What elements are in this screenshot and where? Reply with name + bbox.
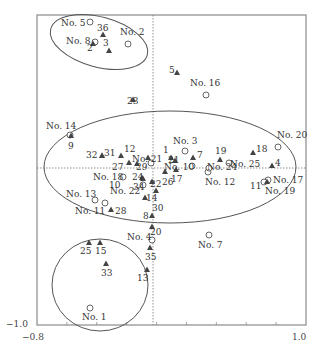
point-label: 30 [152, 203, 164, 213]
point-label: 13 [137, 273, 149, 283]
point-label: 5 [169, 65, 175, 75]
point-label: 24 [132, 172, 144, 182]
species-marker-triangle-icon [106, 48, 112, 54]
species-marker-triangle-icon [174, 70, 180, 76]
point-label: No. 17 [273, 175, 304, 185]
point-label: 31 [104, 148, 115, 158]
species-marker-triangle-icon [103, 261, 109, 267]
point-label: 10 [109, 180, 121, 190]
point-label: 20 [150, 227, 162, 237]
point-label: 36 [97, 23, 109, 33]
point-label: 25 [80, 246, 92, 256]
site-marker-circle-icon [87, 19, 93, 25]
point-label: No. 16 [190, 78, 221, 88]
point-label: 3 [103, 38, 109, 48]
species-marker-triangle-icon [108, 207, 114, 213]
point-label: No. 19 [265, 186, 296, 196]
point-label: 15 [95, 246, 107, 256]
species-marker-triangle-icon [147, 245, 153, 251]
point-label: No. 12 [205, 177, 235, 187]
point-label: 8 [143, 211, 149, 221]
point-label: 21 [168, 155, 179, 165]
point-label: 14 [146, 193, 158, 203]
point-label: No. 25 [230, 159, 261, 169]
x-max-tick-label: 1.0 [292, 332, 307, 342]
point-label: 29 [136, 162, 148, 172]
site-marker-circle-icon [203, 92, 209, 98]
point-label: 35 [145, 252, 157, 262]
x-min-tick-label: −0.8 [22, 332, 44, 342]
point-label: 19 [215, 146, 227, 156]
group-top-left-ellipse [44, 5, 154, 79]
point-label: No. 1 [82, 312, 107, 322]
point-label: No. 5 [61, 18, 86, 28]
point-label: 18 [256, 144, 268, 154]
point-label: 23 [127, 96, 139, 106]
point-label: No. 13 [66, 189, 97, 199]
site-marker-circle-icon [275, 144, 281, 150]
point-label: No. 20 [277, 130, 308, 140]
point-label: 4 [275, 158, 281, 168]
point-label: 9 [68, 141, 74, 151]
site-marker-circle-icon [87, 305, 93, 311]
point-label: 33 [101, 268, 113, 278]
point-label: 26 [162, 177, 174, 187]
point-label: 28 [115, 206, 127, 216]
site-marker-circle-icon [125, 41, 131, 47]
point-label: 2 [87, 43, 93, 53]
site-marker-circle-icon [206, 232, 212, 238]
point-label: 27 [112, 162, 124, 172]
point-label: No. 11 [75, 206, 105, 216]
species-marker-triangle-icon [97, 240, 103, 246]
y-min-tick-label: −1.0 [6, 319, 28, 329]
point-label: 11 [250, 181, 261, 191]
point-label: No. 4 [127, 232, 152, 242]
point-label: No. 3 [173, 136, 198, 146]
point-label: 1 [163, 145, 169, 155]
species-marker-triangle-icon [149, 213, 155, 219]
point-label: 7 [197, 150, 203, 160]
ordination-plot: No. 1No. 2No. 3No. 4No. 5No. 7No. 8No. 1… [0, 0, 320, 350]
point-label: 12 [124, 144, 135, 154]
point-label: No. 2 [120, 27, 145, 37]
site-marker-circle-icon [182, 148, 188, 154]
point-label: 22 [150, 179, 161, 189]
species-marker-triangle-icon [190, 155, 196, 161]
point-label: 32 [86, 150, 97, 160]
point-label: No. 14 [46, 121, 77, 131]
point-label: No. 7 [198, 240, 223, 250]
point-label: 34 [133, 182, 145, 192]
